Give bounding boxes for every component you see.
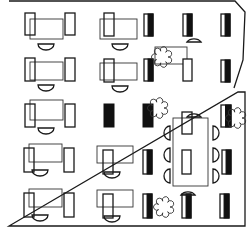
conference-area — [164, 112, 219, 186]
conference-top-chair — [182, 112, 192, 134]
conference-chair-right — [213, 126, 219, 140]
cabinet — [183, 14, 192, 36]
cabinet-shade — [226, 150, 231, 174]
cabinet-shade — [147, 194, 152, 218]
workstation — [100, 59, 137, 92]
cabinet-shade — [224, 194, 229, 218]
chair-right — [64, 148, 74, 172]
swivel-chair — [112, 44, 128, 50]
swivel-chair — [38, 85, 54, 91]
conference-chair-left — [164, 169, 170, 183]
cabinet-body — [104, 104, 114, 127]
desk — [100, 63, 137, 80]
workstation — [24, 144, 74, 176]
cabinet-shade — [186, 194, 191, 218]
cabinet — [144, 59, 153, 81]
cabinet — [143, 194, 152, 218]
workstation — [100, 13, 137, 50]
workstation — [24, 189, 74, 221]
conference-chair-left — [164, 148, 170, 162]
cabinet-shade — [225, 60, 230, 82]
swivel-chair — [104, 216, 120, 222]
outer-walls — [9, 1, 245, 226]
cabinet — [104, 104, 114, 127]
workstation — [25, 13, 75, 50]
cabinet-shade — [225, 14, 230, 36]
swivel-chair — [38, 128, 54, 134]
cabinet-shade — [147, 150, 152, 174]
cabinet — [143, 150, 152, 174]
workstation — [25, 58, 75, 91]
cabinet — [182, 194, 191, 218]
workstation — [25, 100, 75, 134]
cabinet — [143, 104, 153, 127]
conference-chair-right — [213, 169, 219, 183]
workstation — [97, 146, 133, 178]
swivel-chair — [112, 86, 128, 92]
plants — [148, 47, 246, 218]
chair-left — [104, 59, 114, 82]
cabinet-shade — [148, 14, 153, 36]
workstation — [97, 190, 133, 222]
chair-right — [65, 58, 75, 81]
chair-left — [103, 194, 113, 218]
cabinet — [221, 14, 230, 36]
conference-panel — [182, 150, 191, 174]
cabinet-body — [183, 59, 192, 81]
cabinet — [221, 60, 230, 82]
cabinet — [220, 194, 229, 218]
swivel-chair — [38, 44, 54, 50]
office-floor-plan — [0, 0, 248, 235]
conference-chair-right — [213, 148, 219, 162]
cabinet-body — [143, 104, 153, 127]
cabinet — [222, 150, 231, 174]
cabinet-shade — [187, 14, 192, 36]
chair-right — [64, 193, 74, 217]
wall-outline — [9, 1, 245, 226]
chair-right — [65, 104, 75, 127]
cabinet — [144, 14, 153, 36]
cabinet — [183, 59, 192, 81]
plant-icon — [154, 197, 174, 218]
door-swing — [187, 39, 201, 42]
chair-left — [104, 13, 114, 36]
chair-right — [65, 13, 75, 35]
door-swing — [187, 114, 201, 117]
swivel-chair — [104, 172, 120, 178]
cabinet-shade — [148, 59, 153, 81]
